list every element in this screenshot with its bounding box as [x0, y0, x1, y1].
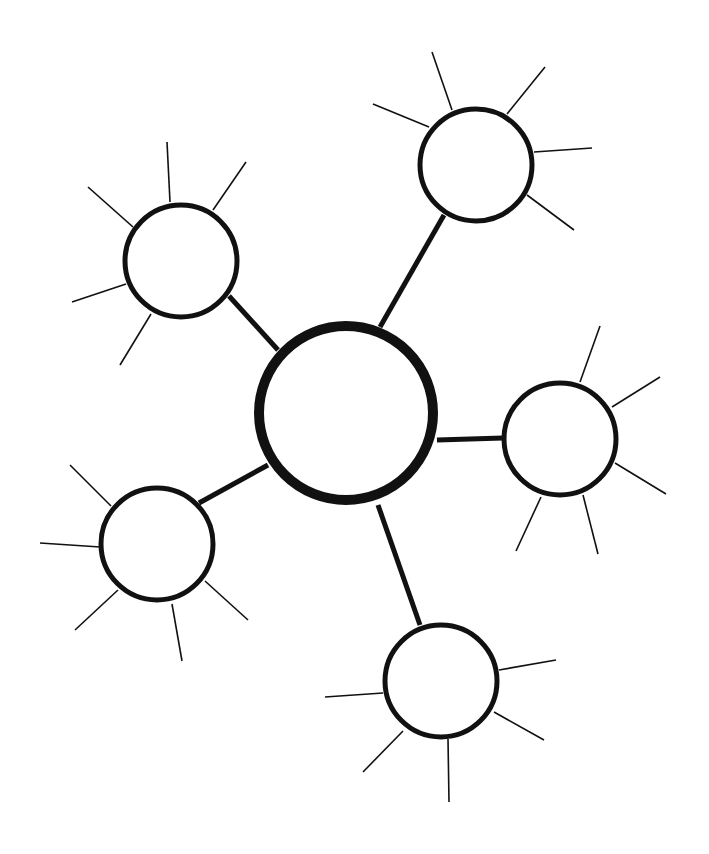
circle-node-bottom — [385, 625, 497, 737]
center-circle — [259, 326, 433, 500]
mind-map-canvas — [0, 0, 709, 854]
circle-node-top-right — [420, 109, 532, 221]
spoke-line — [448, 739, 449, 802]
connector-line-node-right — [437, 438, 503, 440]
mind-map-diagram — [0, 0, 709, 854]
circle-node-top-left — [125, 205, 237, 317]
circle-node-right — [504, 383, 616, 495]
circle-node-bottom-left — [101, 488, 213, 600]
